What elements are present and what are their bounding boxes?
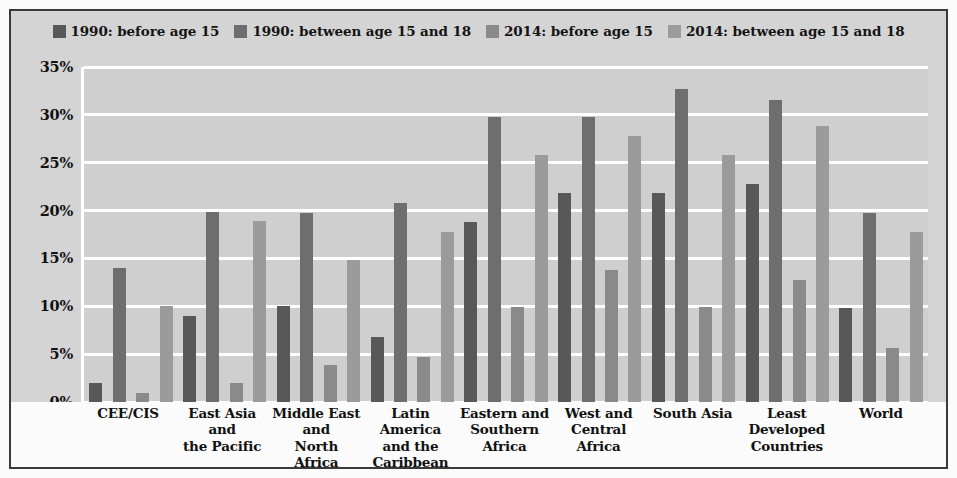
legend-item-3[interactable]: 2014: between age 15 and 18 (668, 23, 905, 39)
bar-slot (342, 67, 365, 402)
bar[interactable] (605, 270, 618, 402)
x-label-line: Eastern and (459, 405, 549, 421)
legend-swatch-icon (668, 25, 681, 38)
bar[interactable] (793, 280, 806, 402)
bar[interactable] (746, 184, 759, 402)
bar-slot (389, 67, 412, 402)
bar[interactable] (183, 316, 196, 402)
bar[interactable] (863, 213, 876, 402)
bar-group (740, 67, 834, 402)
bar-slot (272, 67, 295, 402)
bar[interactable] (839, 308, 852, 402)
x-label-line: World (836, 405, 926, 421)
bar[interactable] (206, 212, 219, 402)
x-label-line: Countries (742, 438, 832, 454)
chart-frame: 1990: before age 151990: between age 15 … (9, 9, 948, 469)
bar[interactable] (652, 193, 665, 402)
y-tick-label: 35% (11, 58, 73, 75)
bar-slot (436, 67, 459, 402)
bar-group (272, 67, 366, 402)
x-label-line: Africa (459, 438, 549, 454)
bar[interactable] (488, 117, 501, 402)
bar[interactable] (582, 117, 595, 402)
bar-slot (483, 67, 506, 402)
x-label-7: Least DevelopedCountries (740, 405, 834, 469)
bar-slot (84, 67, 107, 402)
bar-slot (107, 67, 130, 402)
x-label-line: and (271, 421, 361, 437)
bar-slot (365, 67, 388, 402)
x-label-line: Least Developed (742, 405, 832, 438)
bar[interactable] (699, 307, 712, 402)
x-label-4: Eastern andSouthernAfrica (457, 405, 551, 469)
bar-slot (647, 67, 670, 402)
legend-item-1[interactable]: 1990: between age 15 and 18 (234, 23, 471, 39)
bar-slot (717, 67, 740, 402)
bar[interactable] (300, 213, 313, 403)
x-label-line: the Pacific (177, 438, 267, 454)
chart-legend: 1990: before age 151990: between age 15 … (11, 20, 946, 42)
bar[interactable] (886, 348, 899, 402)
bar[interactable] (769, 100, 782, 402)
bar-slot (576, 67, 599, 402)
chart-figure: 1990: before age 151990: between age 15 … (0, 0, 957, 478)
bar[interactable] (816, 126, 829, 402)
x-label-0: CEE/CIS (81, 405, 175, 469)
x-label-line: Caribbean (365, 454, 455, 469)
legend-item-0[interactable]: 1990: before age 15 (53, 23, 220, 39)
legend-label: 2014: between age 15 and 18 (686, 23, 905, 39)
bar[interactable] (675, 89, 688, 402)
bar-slot (201, 67, 224, 402)
x-label-line: Middle East (271, 405, 361, 421)
bar[interactable] (558, 193, 571, 402)
legend-label: 1990: between age 15 and 18 (252, 23, 471, 39)
x-label-line: North Africa (271, 438, 361, 469)
bar[interactable] (113, 268, 126, 402)
bar[interactable] (277, 306, 290, 402)
bar[interactable] (628, 136, 641, 402)
legend-label: 2014: before age 15 (504, 23, 653, 39)
bar-slot (623, 67, 646, 402)
x-label-3: Latin Americaand theCaribbean (363, 405, 457, 469)
bar-slot (811, 67, 834, 402)
x-label-8: World (834, 405, 928, 469)
bar[interactable] (324, 365, 337, 402)
y-tick-label: 15% (11, 250, 73, 267)
bar[interactable] (535, 155, 548, 402)
y-tick-label: 30% (11, 106, 73, 123)
bar-group (178, 67, 272, 402)
bar[interactable] (441, 232, 454, 402)
bar-slot (225, 67, 248, 402)
bar[interactable] (160, 306, 173, 402)
bar-slot (600, 67, 623, 402)
bar[interactable] (136, 393, 149, 402)
bar[interactable] (464, 222, 477, 402)
bar-slot (694, 67, 717, 402)
bar-group (459, 67, 553, 402)
bar[interactable] (371, 337, 384, 402)
x-label-line: West and (554, 405, 644, 421)
legend-swatch-icon (486, 25, 499, 38)
legend-swatch-icon (234, 25, 247, 38)
x-axis-category-labels: CEE/CISEast Asia andthe PacificMiddle Ea… (81, 405, 928, 469)
x-label-line: CEE/CIS (83, 405, 173, 421)
bar[interactable] (347, 260, 360, 402)
bar[interactable] (910, 232, 923, 402)
x-label-line: and the (365, 438, 455, 454)
x-label-line: Central Africa (554, 421, 644, 454)
bar[interactable] (89, 383, 102, 402)
bar[interactable] (230, 383, 243, 402)
bar[interactable] (417, 357, 430, 402)
bar-slot (881, 67, 904, 402)
bar[interactable] (394, 203, 407, 402)
y-tick-label: 25% (11, 154, 73, 171)
bar-slot (131, 67, 154, 402)
legend-item-2[interactable]: 2014: before age 15 (486, 23, 653, 39)
bar[interactable] (722, 155, 735, 402)
bar-group (84, 67, 178, 402)
x-label-line: South Asia (648, 405, 738, 421)
bar-slot (506, 67, 529, 402)
bar[interactable] (511, 307, 524, 402)
bar[interactable] (253, 221, 266, 402)
bar-groups (84, 67, 928, 402)
